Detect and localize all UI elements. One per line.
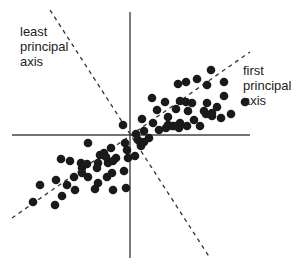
data-point [71,186,80,195]
data-point [203,81,212,90]
data-point [70,173,79,182]
data-point [220,78,229,87]
data-point [161,98,170,107]
data-point [220,92,229,101]
data-point [137,142,146,151]
data-point [168,122,177,131]
data-point [29,198,38,207]
data-point [200,107,209,116]
data-point [108,169,117,178]
data-point [66,157,75,166]
data-point [124,154,133,163]
data-point [140,127,149,136]
data-point [217,114,226,123]
least-principal-axis-label: least principal axis [20,24,68,69]
data-point [184,107,193,116]
data-point [57,155,66,164]
data-point [51,201,60,210]
data-point [122,184,131,193]
data-point [109,186,118,195]
first-principal-axis-label: first principal axis [243,63,291,108]
data-point [196,122,205,131]
data-point [52,176,61,185]
data-point [78,169,87,178]
data-point [208,112,217,121]
data-point [58,192,67,201]
data-point [63,181,72,190]
data-point [193,75,202,84]
data-point [36,181,45,190]
data-point [213,103,222,112]
data-point [207,66,216,75]
pca-diagram: least principal axis first principal axi… [0,0,304,270]
data-point [153,106,162,115]
data-point [183,122,192,131]
data-point [123,146,132,155]
data-point [182,78,191,87]
data-point [174,80,183,89]
data-point [203,99,212,108]
data-point [119,121,128,130]
data-point [84,139,93,148]
data-point [148,94,157,103]
data-point [182,98,191,107]
scatter-points [29,66,250,210]
data-point [172,105,181,114]
data-point [138,115,147,124]
data-point [164,113,173,122]
data-point [227,110,236,119]
data-point [91,185,100,194]
data-point [102,153,111,162]
data-point [120,167,129,176]
data-point [93,164,102,173]
data-point [145,134,154,143]
data-point [149,119,158,128]
data-point [107,144,116,153]
